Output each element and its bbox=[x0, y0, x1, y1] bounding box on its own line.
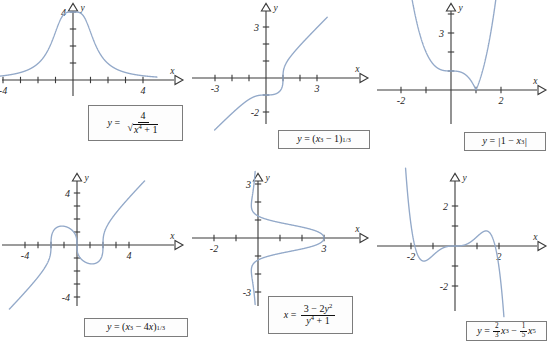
panel-3-xtick-2: 2 bbox=[499, 95, 504, 106]
panel-4-plot: xy-44-44 bbox=[0, 170, 190, 310]
panel-6-equation-box: y = 23x3 − 15x5 bbox=[466, 321, 547, 341]
panel-3: xy-223 bbox=[375, 0, 553, 128]
panel-6: xy-22-22 bbox=[375, 170, 553, 315]
panel-3-equation: y = |1 − x3| bbox=[483, 136, 528, 148]
panel-3-plot: xy-223 bbox=[375, 0, 553, 128]
panel-4-ytick-4: 4 bbox=[65, 188, 70, 199]
panel-2-equation-box: y = (x3 − 1)1/3 bbox=[278, 130, 370, 149]
panel-5-ytick-3: 3 bbox=[245, 179, 251, 190]
panel-1-curve bbox=[0, 12, 157, 77]
panel-2-ytick--2: -2 bbox=[251, 107, 259, 118]
panel-1: xy-444 bbox=[0, 0, 190, 100]
panel-2: xy-33-23 bbox=[190, 0, 375, 128]
panel-5-y-axis-label: y bbox=[265, 173, 271, 183]
panel-2-ytick-3: 3 bbox=[253, 22, 259, 33]
panel-3-ytick-3: 3 bbox=[438, 28, 444, 39]
panel-6-ytick--2: -2 bbox=[440, 281, 448, 292]
panel-6-ytick-2: 2 bbox=[443, 201, 448, 212]
panel-3-y-axis-label: y bbox=[458, 3, 464, 13]
panel-6-xtick--2: -2 bbox=[407, 251, 415, 262]
panel-4-equation: y = (x3 − 4x)1/3 bbox=[107, 322, 165, 333]
panel-5-equation: x = 3 − 2y2y4 + 1 bbox=[284, 304, 337, 326]
panel-6-plot: xy-22-22 bbox=[375, 170, 553, 315]
panel-2-equation: y = (x3 − 1)1/3 bbox=[297, 134, 351, 145]
panel-2-curve bbox=[215, 17, 328, 130]
panel-4-y-axis-label: y bbox=[84, 173, 90, 183]
panel-3-xtick--2: -2 bbox=[397, 95, 405, 106]
panel-3-equation-box: y = |1 − x3| bbox=[464, 132, 546, 151]
panel-1-xtick--4: -4 bbox=[0, 85, 7, 96]
panel-6-equation: y = 23x3 − 15x5 bbox=[477, 323, 535, 338]
figure-grid: xy-444 y = 4√x4 + 1 xy-33-23 y = (x3 − 1… bbox=[0, 0, 553, 345]
panel-2-x-axis-label: x bbox=[354, 64, 360, 74]
panel-3-x-axis-label: x bbox=[532, 76, 538, 86]
panel-2-y-axis-label: y bbox=[273, 3, 279, 13]
panel-2-xtick--3: -3 bbox=[211, 83, 219, 94]
panel-5: xy-23-33 bbox=[190, 170, 375, 310]
panel-5-xtick--2: -2 bbox=[210, 243, 218, 254]
panel-1-equation: y = 4√x4 + 1 bbox=[108, 111, 164, 135]
panel-4: xy-44-44 bbox=[0, 170, 190, 310]
panel-6-y-axis-label: y bbox=[462, 173, 468, 183]
panel-6-x-axis-label: x bbox=[532, 232, 538, 242]
panel-5-plot: xy-23-33 bbox=[190, 170, 375, 310]
panel-1-x-axis-label: x bbox=[169, 66, 175, 76]
panel-5-xtick-3: 3 bbox=[321, 243, 327, 254]
panel-1-y-axis-label: y bbox=[80, 3, 86, 13]
panel-1-xtick-4: 4 bbox=[141, 85, 146, 96]
panel-4-ytick--4: -4 bbox=[62, 292, 70, 303]
panel-4-equation-box: y = (x3 − 4x)1/3 bbox=[84, 318, 188, 337]
panel-4-x-axis-label: x bbox=[169, 231, 175, 241]
panel-5-equation-box: x = 3 − 2y2y4 + 1 bbox=[268, 296, 353, 334]
panel-2-xtick-3: 3 bbox=[314, 83, 320, 94]
panel-1-plot: xy-444 bbox=[0, 0, 190, 100]
panel-5-x-axis-label: x bbox=[354, 224, 360, 234]
panel-4-xtick--4: -4 bbox=[21, 250, 29, 261]
panel-1-equation-box: y = 4√x4 + 1 bbox=[88, 105, 183, 141]
panel-4-xtick-4: 4 bbox=[127, 250, 132, 261]
panel-5-ytick--3: -3 bbox=[243, 287, 251, 298]
panel-2-plot: xy-33-23 bbox=[190, 0, 375, 128]
